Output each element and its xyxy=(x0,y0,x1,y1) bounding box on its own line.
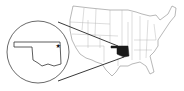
us-locator-map: ★ xyxy=(0,0,184,91)
inset-circle xyxy=(7,21,69,83)
us-map xyxy=(70,6,176,76)
star-icon: ★ xyxy=(56,42,61,49)
us-outline xyxy=(70,6,176,76)
